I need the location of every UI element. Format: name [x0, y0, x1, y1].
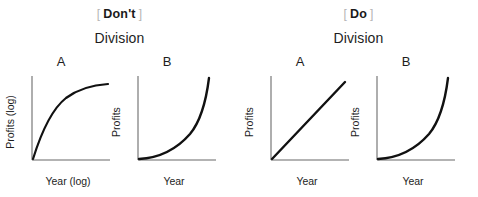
chart-letter-label: B [114, 54, 220, 70]
data-curve-exponential [139, 78, 209, 159]
y-axis-label: Profits [108, 76, 124, 168]
y-axis-label: Profits [347, 76, 363, 168]
bracket-open-icon: [ [94, 7, 104, 21]
chart-letter-label: A [247, 54, 353, 70]
bracket-close-icon: ] [136, 7, 146, 21]
do-panel-group: [Do] Division A Profits Year B [239, 0, 478, 197]
plot-svg [136, 76, 216, 168]
verdict-badge-dont: [Don't] [0, 6, 239, 22]
chart-do-a: A Profits Year [247, 54, 353, 197]
bracket-close-icon: ] [367, 7, 377, 21]
x-axis-label: Year [128, 174, 220, 188]
plot-area [375, 76, 455, 168]
plot-svg [30, 76, 110, 168]
chart-letter-label: B [353, 54, 459, 70]
verdict-label: Do [350, 7, 367, 21]
dont-do-figure: [Don't] Division A Profits (log) Year (l… [0, 0, 478, 197]
chart-letter-label: A [8, 54, 114, 70]
plot-area [136, 76, 216, 168]
verdict-badge-do: [Do] [239, 6, 478, 22]
plot-svg [375, 76, 455, 168]
x-axis-label: Year [261, 174, 353, 188]
chart-do-b: B Profits Year [353, 54, 459, 197]
bracket-open-icon: [ [340, 7, 350, 21]
dont-panel-group: [Don't] Division A Profits (log) Year (l… [0, 0, 239, 197]
plot-area [269, 76, 349, 168]
plot-area [30, 76, 110, 168]
data-curve-logarithmic [33, 84, 108, 159]
x-axis-label: Year (log) [22, 174, 114, 188]
y-axis-label: Profits (log) [2, 76, 18, 168]
verdict-label: Don't [103, 7, 135, 21]
plot-svg [269, 76, 349, 168]
x-axis-label: Year [367, 174, 459, 188]
division-title-dont: Division [0, 29, 239, 47]
division-title-do: Division [239, 29, 478, 47]
y-axis-label: Profits [241, 76, 257, 168]
chart-dont-b: B Profits Year [114, 54, 220, 197]
data-curve-linear [272, 82, 345, 159]
chart-dont-a: A Profits (log) Year (log) [8, 54, 114, 197]
data-curve-exponential [378, 78, 448, 159]
